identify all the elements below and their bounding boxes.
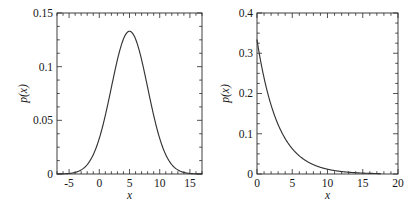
y-tick-labels-left: 00.050.10.15: [33, 7, 53, 180]
y-tick-label: 0.1: [39, 61, 54, 73]
x-tick-label: 15: [184, 177, 196, 189]
x-tick-label: 10: [322, 177, 334, 189]
y-axis-label-right: p(x): [219, 84, 232, 104]
x-tick-label: 0: [254, 177, 260, 189]
x-tick-label: 0: [96, 177, 102, 189]
exponential-curve: [257, 40, 380, 174]
exponential-plot: 05101520 00.10.20.30.4 x p(x): [210, 0, 420, 206]
x-tick-label: 5: [127, 177, 133, 189]
y-tick-label: 0: [247, 168, 253, 180]
x-axis-label-left: x: [126, 189, 133, 201]
figure-canvas: -5051015 00.050.10.15 x p(x) 05101520 00…: [0, 0, 420, 206]
y-tick-label: 0.15: [33, 7, 53, 19]
x-axis-label-right: x: [324, 189, 331, 201]
axes-left: [57, 13, 202, 174]
y-tick-label: 0.1: [239, 128, 254, 140]
x-tick-label: 10: [154, 177, 166, 189]
x-tick-labels-left: -5051015: [64, 177, 196, 189]
y-axis-label-left: p(x): [17, 84, 30, 104]
gaussian-curve: [57, 31, 202, 174]
x-tick-label: 20: [392, 177, 404, 189]
chart-panel-right: 05101520 00.10.20.30.4 x p(x): [210, 0, 420, 206]
x-tick-label: 5: [289, 177, 295, 189]
chart-panel-left: -5051015 00.050.10.15 x p(x): [0, 0, 210, 206]
gaussian-plot: -5051015 00.050.10.15 x p(x): [0, 0, 210, 206]
x-tick-label: 15: [357, 177, 369, 189]
x-tick-label: -5: [64, 177, 74, 189]
y-tick-label: 0: [47, 168, 53, 180]
x-tick-labels-right: 05101520: [254, 177, 404, 189]
y-tick-label: 0.3: [239, 47, 254, 59]
y-tick-label: 0.4: [239, 7, 254, 19]
y-tick-label: 0.2: [239, 87, 254, 99]
y-tick-labels-right: 00.10.20.30.4: [239, 7, 254, 180]
axes-right: [257, 13, 398, 174]
y-tick-label: 0.05: [33, 114, 53, 126]
